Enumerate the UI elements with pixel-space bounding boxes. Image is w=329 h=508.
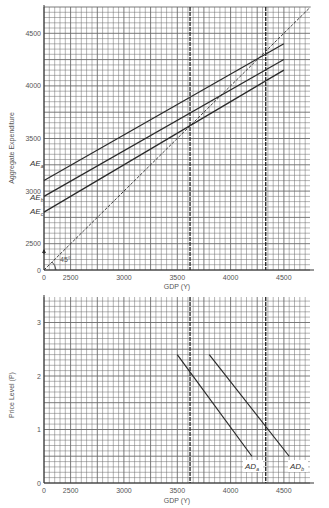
angle-label: 45°	[60, 256, 71, 263]
svg-text:3: 3	[37, 319, 41, 326]
svg-text:3000: 3000	[116, 274, 132, 281]
svg-text:2500: 2500	[63, 487, 79, 494]
svg-text:2500: 2500	[63, 274, 79, 281]
svg-text:0: 0	[37, 267, 41, 274]
svg-text:4500: 4500	[276, 274, 292, 281]
svg-text:3500: 3500	[25, 135, 41, 142]
top-x-axis-label: GDP (Y)	[164, 283, 190, 291]
curve-label-ae-c: AEc	[29, 207, 44, 217]
svg-text:4500: 4500	[276, 487, 292, 494]
svg-text:2500: 2500	[25, 240, 41, 247]
svg-text:2: 2	[37, 373, 41, 380]
svg-text:3500: 3500	[169, 487, 185, 494]
svg-text:1: 1	[37, 426, 41, 433]
curve-label-ae-a: AEa	[29, 159, 44, 169]
svg-text:4000: 4000	[25, 82, 41, 89]
svg-text:AEc: AEc	[29, 207, 44, 217]
bottom-x-axis-label: GDP (Y)	[164, 497, 190, 505]
svg-text:0: 0	[42, 274, 46, 281]
bottom-chart-lines	[177, 355, 289, 457]
curve-label-ad-a: ADa	[243, 460, 263, 472]
svg-text:4000: 4000	[223, 487, 239, 494]
svg-text:AEa: AEa	[29, 159, 44, 169]
svg-text:4000: 4000	[223, 274, 239, 281]
bottom-chart-grid	[44, 295, 314, 483]
svg-text:4500: 4500	[25, 30, 41, 37]
svg-text:3000: 3000	[25, 188, 41, 195]
curve-label-ad-b: ADb	[288, 460, 308, 472]
bottom-y-axis-label: Price Level (P)	[8, 372, 16, 418]
svg-text:0: 0	[42, 487, 46, 494]
ae-ad-chart: Aggregate Expenditure GDP (Y) 45° AEa AE…	[0, 0, 329, 508]
svg-text:3500: 3500	[169, 274, 185, 281]
svg-text:3000: 3000	[116, 487, 132, 494]
top-y-axis-label: Aggregate Expenditure	[8, 112, 16, 184]
svg-text:0: 0	[37, 480, 41, 487]
